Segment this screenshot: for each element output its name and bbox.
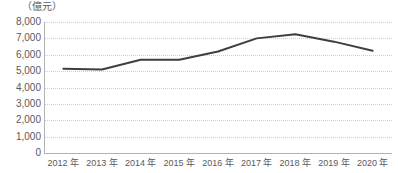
y-tick-label: 1,000 [0,132,41,142]
y-tick-label: 3,000 [0,99,41,109]
y-tick-label: 8,000 [0,17,41,27]
x-axis-tick-labels: 2012 年2013 年2014 年2015 年2016 年2017 年2018… [44,157,392,171]
x-tick-label: 2018 年 [280,157,312,169]
series-polyline [63,34,372,69]
x-tick-label: 2019 年 [318,157,350,169]
y-tick-label: 2,000 [0,115,41,125]
line-chart-figure: （億元） 8,0007,0006,0005,0004,0003,0002,000… [0,0,398,173]
x-tick-label: 2020 年 [357,157,389,169]
x-tick-label: 2017 年 [241,157,273,169]
x-axis-line [44,153,392,154]
y-tick-label: 5,000 [0,66,41,76]
y-tick-label: 7,000 [0,33,41,43]
x-tick-label: 2014 年 [125,157,157,169]
x-tick-label: 2013 年 [86,157,118,169]
data-series-line [44,22,392,153]
y-tick-label: 6,000 [0,50,41,60]
x-tick-label: 2016 年 [202,157,234,169]
plot-area [44,22,392,153]
x-tick-label: 2012 年 [48,157,80,169]
y-axis-tick-labels: 8,0007,0006,0005,0004,0003,0002,0001,000… [0,0,41,173]
y-tick-label: 0 [0,148,41,158]
x-tick-label: 2015 年 [164,157,196,169]
y-tick-label: 4,000 [0,83,41,93]
y-axis-line [44,22,45,153]
